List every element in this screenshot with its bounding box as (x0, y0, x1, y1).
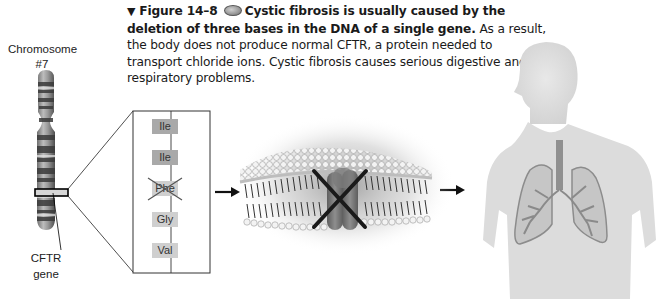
amino-acid-ile-1: Ile (152, 119, 178, 134)
figure-illustration (0, 0, 660, 299)
chromosome-7 (37, 70, 55, 230)
amino-acid-gly: Gly (152, 212, 178, 227)
cell-membrane (235, 115, 455, 255)
cftr-gene-label: CFTR gene (26, 250, 66, 282)
human-torso-lungs (483, 42, 656, 299)
gene-label-line1: CFTR (26, 250, 66, 266)
cftr-gene-marker (35, 189, 68, 196)
amino-acid-val: Val (152, 243, 178, 258)
gene-label-line2: gene (26, 266, 66, 282)
amino-acid-ile-2: Ile (152, 150, 178, 165)
deletion-cross-icon (146, 176, 184, 202)
